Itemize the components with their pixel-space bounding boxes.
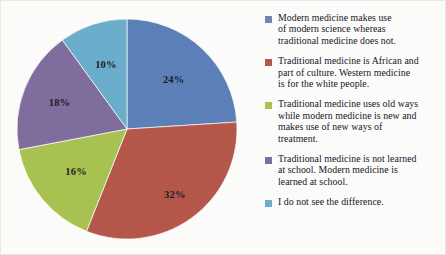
legend-item-0[interactable]: Modern medicine makes useof modern scien…: [265, 12, 441, 46]
pie-slices: [17, 19, 237, 239]
legend-item-4[interactable]: I do not see the difference.: [265, 196, 441, 207]
legend-item-label: Modern medicine makes useof modern scien…: [278, 12, 396, 46]
legend-swatch-icon: [265, 157, 272, 164]
pie-label-32: 32%: [164, 189, 186, 200]
pie-chart-svg: 24% 32% 16% 18% 10%: [15, 17, 239, 241]
legend-swatch-icon: [265, 59, 272, 66]
pie-chart-figure: 24% 32% 16% 18% 10% Modern medicine make…: [0, 0, 446, 255]
legend-swatch-icon: [265, 102, 272, 109]
pie-chart: 24% 32% 16% 18% 10%: [15, 17, 239, 241]
legend-item-label: Traditional medicine uses old wayswhile …: [278, 98, 418, 144]
pie-label-24: 24%: [163, 74, 185, 85]
pie-label-18: 18%: [49, 97, 71, 108]
legend-item-label: Traditional medicine is not learnedat sc…: [278, 153, 417, 187]
legend-item-1[interactable]: Traditional medicine is African andpart …: [265, 55, 441, 89]
chart-legend: Modern medicine makes useof modern scien…: [265, 12, 441, 217]
pie-label-16: 16%: [65, 166, 87, 177]
legend-item-2[interactable]: Traditional medicine uses old wayswhile …: [265, 98, 441, 144]
legend-item-label: I do not see the difference.: [278, 196, 384, 207]
legend-swatch-icon: [265, 200, 272, 207]
legend-item-3[interactable]: Traditional medicine is not learnedat sc…: [265, 153, 441, 187]
legend-swatch-icon: [265, 16, 272, 23]
pie-label-10: 10%: [95, 59, 117, 70]
legend-item-label: Traditional medicine is African andpart …: [278, 55, 419, 89]
